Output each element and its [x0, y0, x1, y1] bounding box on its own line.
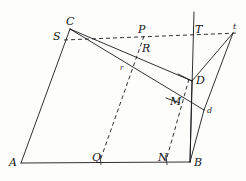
segment-dB-line: [190, 110, 204, 162]
point-label-R: R: [142, 43, 150, 54]
point-label-T: T: [195, 24, 202, 35]
figure-canvas: [0, 0, 246, 181]
chord-Cd-line: [70, 29, 204, 110]
point-label-N: N: [158, 152, 168, 163]
point-label-d: d: [207, 107, 212, 115]
dashed-lines-group: [64, 33, 238, 161]
point-label-t: t: [233, 23, 236, 31]
short-stub-D-line: [178, 74, 192, 81]
side-AC-line: [21, 29, 70, 163]
horizontal-S-t-dashed: [64, 33, 238, 40]
point-label-C: C: [66, 16, 74, 27]
point-label-B: B: [194, 157, 202, 168]
diagonal-D-N-dashed: [166, 79, 189, 161]
point-label-S: S: [53, 31, 61, 42]
vertex-ticks-group: [100, 155, 167, 165]
chord-CD-line: [70, 29, 192, 81]
segment-dt-line: [204, 33, 233, 110]
point-label-P: P: [138, 24, 145, 35]
point-label-D: D: [196, 75, 205, 86]
point-label-Q: Q: [92, 152, 101, 163]
point-label-r: r: [120, 65, 123, 72]
diagonal-P-Q-dashed: [100, 36, 144, 161]
point-label-A: A: [9, 157, 17, 168]
point-label-M: M: [170, 96, 181, 107]
geometry-figure: C S P T t R r D M d A Q N B: [0, 0, 246, 181]
